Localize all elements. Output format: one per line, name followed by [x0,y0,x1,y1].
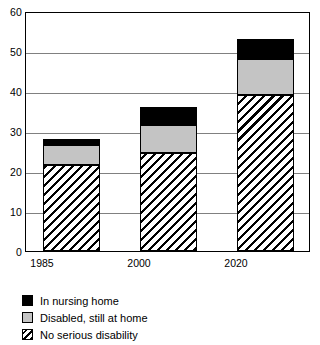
y-tick-label-10: 10 [0,207,22,218]
y-tick-label-40: 40 [0,87,22,98]
bar-segment-disabled-still-at-home-2020 [237,59,294,95]
bar-segment-no-serious-disability-2020 [237,95,294,251]
hatch-swatch-icon [22,329,33,340]
bar-segment-in-nursing-home-2020 [237,39,294,59]
bar-segment-no-serious-disability-2000 [140,153,197,251]
y-tick-label-0: 0 [0,247,22,258]
x-tick-label-2000: 2000 [99,258,179,269]
black-swatch-icon [22,295,33,306]
gray-swatch-icon [22,312,33,323]
chart-legend: In nursing home Disabled, still at home … [22,292,302,343]
stacked-bar-chart: 60 50 40 30 20 10 0 1985 2000 20 [0,0,320,280]
y-tick-label-60: 60 [0,7,22,18]
legend-item-disabled-still-at-home: Disabled, still at home [22,309,302,326]
y-tick-label-50: 50 [0,47,22,58]
x-tick-label-1985: 1985 [2,258,82,269]
plot-area [25,12,310,252]
legend-item-in-nursing-home: In nursing home [22,292,302,309]
legend-label-disabled-still-at-home: Disabled, still at home [40,312,148,324]
y-tick-label-30: 30 [0,127,22,138]
legend-item-no-serious-disability: No serious disability [22,326,302,343]
bar-segment-no-serious-disability-1985 [43,165,100,251]
bar-segment-in-nursing-home-1985 [43,139,100,145]
bar-segment-disabled-still-at-home-1985 [43,145,100,165]
bar-segment-disabled-still-at-home-2000 [140,125,197,153]
legend-label-in-nursing-home: In nursing home [40,295,119,307]
y-tick-label-20: 20 [0,167,22,178]
x-tick-label-2020: 2020 [196,258,276,269]
bar-segment-in-nursing-home-2000 [140,107,197,125]
legend-label-no-serious-disability: No serious disability [40,329,138,341]
